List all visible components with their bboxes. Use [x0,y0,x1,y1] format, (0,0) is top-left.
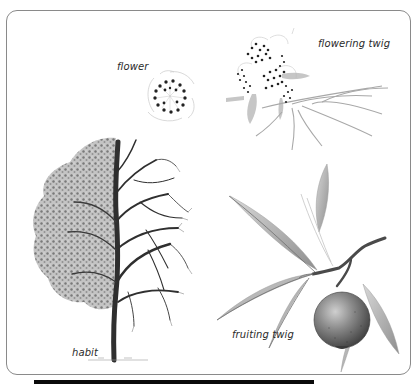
label-fruiting-twig: fruiting twig [232,329,294,340]
flower-illustration [140,68,200,126]
label-habit: habit [72,347,98,358]
fruiting-twig-illustration [205,162,400,374]
fruit-icon [314,292,370,348]
tree-habit-illustration [28,132,196,364]
flowering-twig-illustration [222,28,392,153]
bottom-bar [34,380,314,384]
